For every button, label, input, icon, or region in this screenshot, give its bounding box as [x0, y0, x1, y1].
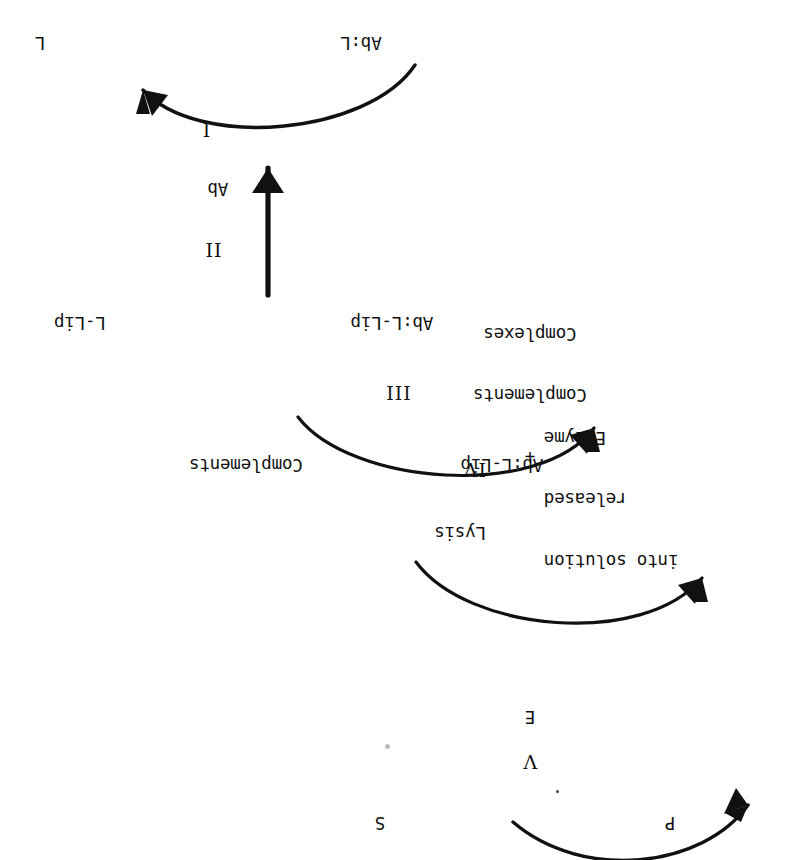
- release-note-line-3: into solution: [544, 548, 678, 572]
- label-enzyme: E: [525, 704, 535, 728]
- label-complements-complex-2: Complexes: [473, 321, 587, 345]
- reaction-scheme-figure: L Ab I Ab:L L-Lip II Ab:L-Lip Complement…: [0, 0, 798, 860]
- lysis-label: Lysis: [434, 520, 486, 544]
- label-product: P: [665, 810, 675, 834]
- step-numeral-two: II: [204, 236, 221, 262]
- step-numeral-one: I: [202, 116, 211, 142]
- step-numeral-four: IV: [434, 457, 486, 483]
- enzyme-release-note: into solution released Enzyme: [544, 387, 678, 610]
- release-note-line-2: released: [544, 487, 678, 511]
- label-ab-latex: Ab:L: [340, 30, 381, 54]
- label-ab-liposome: Ab:L-Lip: [351, 310, 434, 334]
- rotated-figure-canvas: L Ab I Ab:L L-Lip II Ab:L-Lip Complement…: [0, 0, 798, 860]
- label-liposome: L-Lip: [54, 310, 106, 334]
- label-substrate: S: [375, 810, 385, 834]
- label-complements-input: Complements: [189, 452, 303, 476]
- scan-speck: [556, 790, 559, 793]
- release-note-line-1: Enzyme: [544, 425, 678, 449]
- step-numeral-five: V: [523, 748, 538, 774]
- label-antibody: Ab: [208, 176, 229, 200]
- scan-speck: [385, 744, 390, 749]
- arrow-step-four: [252, 168, 284, 295]
- lysis-note: Lysis IV: [434, 419, 486, 582]
- arrow-step-one: [513, 788, 748, 860]
- step-numeral-three: III: [385, 379, 411, 405]
- arrow-step-five: [136, 65, 415, 127]
- label-latex: L: [35, 30, 45, 54]
